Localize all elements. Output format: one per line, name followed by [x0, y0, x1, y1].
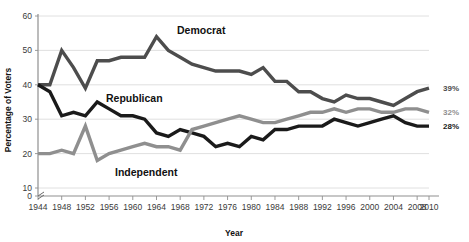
series-label-independent: Independent [115, 166, 178, 178]
x-tick-label: 1984 [266, 202, 285, 212]
series-label-democrat: Democrat [177, 24, 226, 36]
x-tick-label: 1948 [52, 202, 71, 212]
series-end-labels: 39%28%32% [443, 84, 459, 131]
x-axis-title: Year [225, 228, 244, 238]
voter-party-affiliation-chart: 0102030405060 19441948195219561960196419… [0, 0, 469, 242]
x-tick-label: 1956 [100, 202, 119, 212]
y-axis-title: Percentage of Voters [3, 68, 13, 153]
x-tick-label: 1992 [313, 202, 332, 212]
x-tick-label: 1988 [289, 202, 308, 212]
x-tick-label: 1968 [171, 202, 190, 212]
x-tick-label: 1952 [76, 202, 95, 212]
x-tick-label: 1972 [194, 202, 213, 212]
y-tick-label: 30 [23, 114, 33, 124]
end-label-independent: 32% [443, 108, 459, 117]
y-tick-label: 20 [23, 149, 33, 159]
series-label-republican: Republican [106, 92, 163, 104]
x-tick-label: 1976 [218, 202, 237, 212]
chart-canvas: 0102030405060 19441948195219561960196419… [0, 0, 469, 242]
x-tick-label: 2004 [384, 202, 403, 212]
y-tick-label: 50 [23, 45, 33, 55]
x-tick-label: 1996 [337, 202, 356, 212]
y-tick-label: 60 [23, 11, 33, 21]
x-tick-label: 2010 [420, 202, 439, 212]
end-label-republican: 28% [443, 122, 459, 131]
y-tick-label: 40 [23, 80, 33, 90]
end-label-democrat: 39% [443, 84, 459, 93]
x-tick-label: 1964 [147, 202, 166, 212]
x-tick-label: 1960 [123, 202, 142, 212]
x-tick-label: 1944 [29, 202, 48, 212]
x-tick-label: 1980 [242, 202, 261, 212]
x-tick-label: 2000 [360, 202, 379, 212]
y-tick-label: 10 [23, 183, 33, 193]
